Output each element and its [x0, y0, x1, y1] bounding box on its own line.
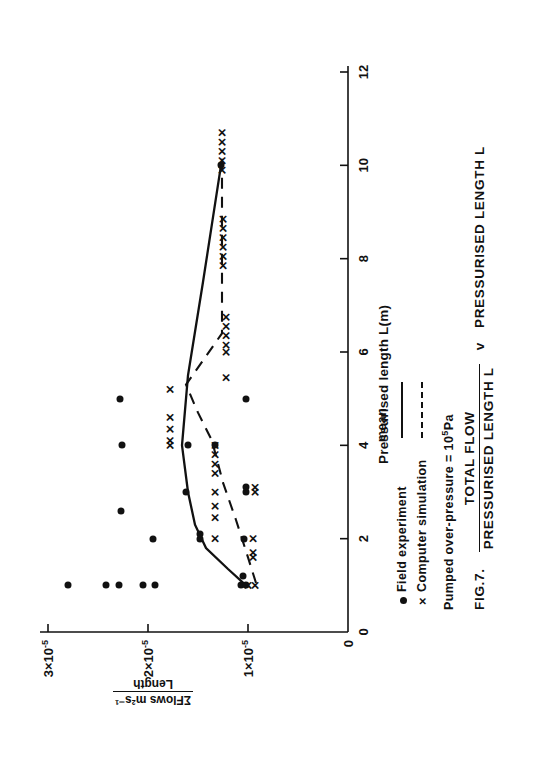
- x-tick-label: 0: [356, 628, 371, 635]
- legend-note-overpressure: Pumped over-pressure = 105Pa: [440, 382, 456, 610]
- figure-rotator: 024681012 01×10-52×10-53×10-5 Pressurise…: [0, 0, 545, 760]
- caption-versus: v: [472, 342, 487, 350]
- x-tick-label: 6: [356, 348, 371, 355]
- caption-ratio-numerator: TOTAL FLOW: [462, 364, 480, 552]
- x-tick-label: 10: [356, 158, 371, 172]
- legend-label-field-experiment: Field experiment: [395, 442, 409, 592]
- caption-tail: PRESSURISED LENGTH L: [472, 146, 487, 328]
- legend-cross-marker-icon: ×: [415, 592, 430, 610]
- legend-item-computer-simulation: × Computer simulation: [412, 382, 432, 610]
- x-tick-label: 2: [356, 535, 371, 542]
- y-tick-label: 1×10-5: [240, 640, 256, 694]
- x-tick-label: 12: [356, 65, 371, 79]
- y-axis-title-denominator: Length: [113, 678, 193, 692]
- y-axis-title-numerator: ΣFlows m²s⁻¹: [113, 691, 193, 706]
- mean-line-simulation: [186, 151, 256, 583]
- legend: mean Field experiment × Computer simulat…: [372, 382, 456, 610]
- caption-ratio-denominator: PRESSURISED LENGTH L: [480, 364, 497, 552]
- y-tick-label: 3×10-5: [40, 640, 56, 694]
- legend-solid-line-sample: [396, 382, 408, 438]
- figure-canvas: 024681012 01×10-52×10-53×10-5 Pressurise…: [0, 0, 545, 760]
- legend-header-row: mean: [372, 382, 392, 610]
- legend-mean-header: mean: [375, 386, 389, 442]
- legend-item-field-experiment: Field experiment: [392, 382, 412, 610]
- y-axis-title: ΣFlows m²s⁻¹ Length: [113, 678, 193, 706]
- y-axis-title-fraction: ΣFlows m²s⁻¹ Length: [113, 678, 193, 706]
- legend-label-computer-simulation: Computer simulation: [415, 442, 429, 592]
- legend-dashed-line-sample: [416, 382, 428, 438]
- x-tick-label: 4: [356, 442, 371, 449]
- legend-note-exponent: 5: [440, 430, 450, 435]
- caption-ratio: TOTAL FLOW PRESSURISED LENGTH L: [462, 364, 496, 552]
- y-tick-label: 0: [341, 640, 356, 658]
- legend-note-text: Pumped over-pressure = 10: [442, 436, 456, 610]
- x-tick-label: 8: [356, 255, 371, 262]
- figure-number: FIG.7.: [472, 568, 487, 610]
- figure-caption: FIG.7. TOTAL FLOW PRESSURISED LENGTH L v…: [462, 146, 496, 610]
- legend-dot-marker-icon: [395, 592, 410, 610]
- legend-note-unit: Pa: [442, 414, 456, 430]
